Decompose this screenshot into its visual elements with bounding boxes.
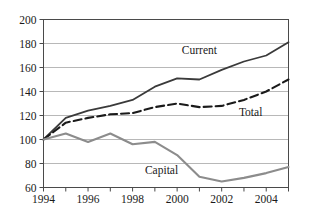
y-axis-label-160: 160 [19, 62, 37, 74]
y-axis-tick-labels: 2001801601401201008060 [19, 14, 37, 194]
line-chart-figure: 2001801601401201008060 19941996199820002… [0, 0, 324, 213]
x-axis-ticks-group [44, 188, 289, 192]
x-axis-label-1994: 1994 [32, 193, 55, 205]
y-axis-label-140: 140 [19, 86, 37, 98]
y-axis-label-120: 120 [19, 110, 37, 122]
y-axis-label-180: 180 [19, 38, 37, 50]
series-line-current [44, 42, 289, 139]
y-axis-label-100: 100 [19, 134, 37, 146]
y-axis-label-80: 80 [25, 158, 37, 170]
chart-canvas: 2001801601401201008060 19941996199820002… [0, 0, 324, 213]
x-axis-label-2002: 2002 [210, 193, 233, 205]
x-axis-tick-labels: 199419961998200020022004 [32, 193, 278, 205]
gridlines-group [44, 20, 289, 164]
x-axis-label-2000: 2000 [166, 193, 189, 205]
series-label-capital: Capital [145, 164, 178, 177]
plot-frame-group [44, 20, 289, 188]
x-axis-label-1998: 1998 [121, 193, 144, 205]
series-inline-labels: CurrentTotalCapital [145, 44, 262, 177]
x-axis-label-2004: 2004 [255, 193, 278, 205]
series-label-total: Total [239, 106, 262, 118]
y-axis-label-200: 200 [19, 14, 37, 26]
x-axis-label-1996: 1996 [77, 193, 100, 205]
plot-area-border [44, 20, 289, 188]
y-axis-ticks-group [40, 20, 44, 188]
series-label-current: Current [182, 44, 218, 56]
